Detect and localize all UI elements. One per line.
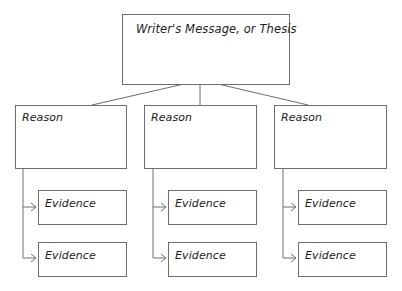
thesis-box: Writer's Message, or Thesis — [122, 14, 290, 85]
evidence-box-3-2: Evidence — [298, 242, 387, 277]
reason-label: Reason — [22, 111, 63, 124]
evidence-box-3-1: Evidence — [298, 190, 387, 225]
reason-label: Reason — [151, 111, 192, 124]
evidence-box-2-1: Evidence — [168, 190, 257, 225]
evidence-label: Evidence — [305, 249, 356, 262]
reason-box-3: Reason — [274, 105, 387, 169]
evidence-label: Evidence — [45, 197, 96, 210]
reason-box-1: Reason — [15, 105, 127, 169]
evidence-label: Evidence — [305, 197, 356, 210]
evidence-label: Evidence — [45, 249, 96, 262]
evidence-box-1-1: Evidence — [38, 190, 127, 225]
evidence-label: Evidence — [175, 197, 226, 210]
evidence-box-1-2: Evidence — [38, 242, 127, 277]
reason-label: Reason — [281, 111, 322, 124]
evidence-box-2-2: Evidence — [168, 242, 257, 277]
evidence-label: Evidence — [175, 249, 226, 262]
reason-box-2: Reason — [144, 105, 257, 169]
thesis-label: Writer's Message, or Thesis — [136, 22, 297, 36]
